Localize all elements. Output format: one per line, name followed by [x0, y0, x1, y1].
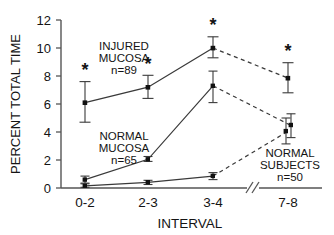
- data-point: [284, 129, 288, 133]
- y-tick-label-10: 10: [37, 41, 51, 56]
- y-tick-labels: 12 10 8 6 4 2 0: [37, 13, 51, 196]
- x-tick-labels: 0-2 2-3 3-4 7-8: [75, 195, 298, 210]
- annotation-line-1: NORMAL: [265, 147, 315, 159]
- x-tick-label-3-4: 3-4: [203, 195, 223, 210]
- annotation-line-1: INJURED: [99, 40, 149, 52]
- annotation-normal-mucosa: NORMAL MUCOSA n=65: [99, 130, 150, 166]
- annotation-line-2: SUBJECTS: [260, 159, 320, 171]
- y-tick-label-12: 12: [37, 13, 51, 28]
- annotation-normal-subjects: NORMAL SUBJECTS n=50: [260, 147, 320, 183]
- annotation-injured-mucosa: INJURED MUCOSA n=89: [99, 40, 150, 76]
- line-chart-svg: 12 10 8 6 4 2 0 PERCENT TOTAL TIME 0-2 2…: [0, 0, 334, 235]
- x-axis-title: INTERVAL: [158, 216, 223, 231]
- annotation-line-n: n=65: [111, 154, 137, 166]
- data-point: [211, 174, 215, 178]
- annotation-line-2: MUCOSA: [99, 142, 150, 154]
- annotation-line-n: n=50: [277, 171, 303, 183]
- data-point: [83, 100, 88, 105]
- data-point: [289, 123, 293, 127]
- x-tick-label-7-8: 7-8: [278, 195, 298, 210]
- significance-asterisk: *: [284, 41, 291, 61]
- y-tick-marks: [56, 20, 61, 188]
- series-injured-mucosa-line-dashed: [213, 48, 288, 78]
- data-point: [83, 177, 87, 181]
- data-point: [211, 46, 216, 51]
- data-point: [146, 85, 151, 90]
- x-tick-label-0-2: 0-2: [75, 195, 95, 210]
- x-tick-label-2-3: 2-3: [138, 195, 158, 210]
- y-tick-label-8: 8: [44, 69, 51, 84]
- significance-asterisk: *: [209, 15, 216, 35]
- y-tick-label-0: 0: [44, 181, 51, 196]
- annotation-line-2: MUCOSA: [99, 52, 150, 64]
- y-tick-label-4: 4: [44, 125, 51, 140]
- series-normal-mucosa-line-dashed: [213, 86, 290, 125]
- data-point: [83, 184, 87, 188]
- data-point: [146, 157, 150, 161]
- annotation-line-1: NORMAL: [99, 130, 149, 142]
- y-tick-label-6: 6: [44, 97, 51, 112]
- data-point: [146, 180, 150, 184]
- chart-figure: 12 10 8 6 4 2 0 PERCENT TOTAL TIME 0-2 2…: [0, 0, 334, 235]
- significance-asterisk: *: [81, 60, 88, 80]
- y-tick-label-2: 2: [44, 153, 51, 168]
- data-point: [286, 76, 291, 81]
- x-axis-break-icon: [246, 182, 259, 193]
- y-axis-title: PERCENT TOTAL TIME: [8, 34, 23, 174]
- annotation-line-n: n=89: [111, 64, 137, 76]
- data-point: [211, 84, 215, 88]
